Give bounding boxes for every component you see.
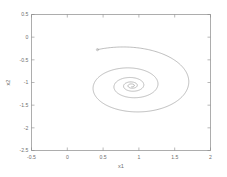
- x-tick-label: 1: [137, 154, 140, 160]
- axes-frame: [32, 15, 211, 151]
- y-tick-label: -1.5: [20, 102, 29, 108]
- y-tick-label: -2.5: [20, 147, 29, 153]
- x-tick-label: 1.5: [171, 154, 178, 160]
- phase-portrait-chart: -0.500.511.52 -2.5-2-1.5-1-0.500.5 x1 x2: [0, 0, 227, 177]
- trajectory-group: [93, 47, 189, 112]
- spiral-trajectory: [93, 47, 189, 112]
- x-tick-label: -0.5: [27, 154, 36, 160]
- y-tick-label: -0.5: [20, 57, 29, 63]
- y-axis-ticks: [32, 15, 211, 151]
- x-tick-label: 0: [66, 154, 69, 160]
- x-axis-ticks: [32, 15, 211, 151]
- x-axis-tick-labels: -0.500.511.52: [27, 154, 212, 160]
- y-tick-label: 0.5: [21, 11, 28, 17]
- x-axis-label: x1: [118, 163, 124, 169]
- x-tick-label: 0.5: [100, 154, 107, 160]
- figure-canvas: -0.500.511.52 -2.5-2-1.5-1-0.500.5 x1 x2: [0, 0, 227, 177]
- y-axis-label: x2: [5, 80, 11, 86]
- x-tick-label: 2: [209, 154, 212, 160]
- y-tick-label: -2: [24, 125, 29, 131]
- y-axis-tick-labels: -2.5-2-1.5-1-0.500.5: [20, 11, 29, 153]
- y-tick-label: 0: [25, 34, 28, 40]
- axes-box: [32, 15, 211, 151]
- y-tick-label: -1: [24, 79, 29, 85]
